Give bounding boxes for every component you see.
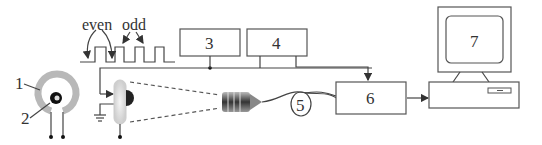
pulse-waveform: even odd [80, 16, 175, 62]
label-3: 3 [205, 34, 214, 53]
block-4: 4 [247, 29, 368, 80]
label-6: 6 [366, 89, 375, 108]
label-7: 7 [470, 32, 479, 51]
even-label: even [82, 16, 112, 33]
objective-lens [222, 92, 262, 112]
block-6: 6 [336, 82, 428, 114]
setup-diagram: 1 2 even odd [0, 0, 542, 145]
label-5: 5 [296, 96, 305, 115]
optical-fiber: 5 [262, 92, 348, 116]
label-2: 2 [21, 109, 30, 128]
computer: 7 [429, 7, 519, 108]
light-cone-top [130, 82, 220, 95]
label-1: 1 [15, 74, 24, 93]
odd-label: odd [122, 16, 146, 33]
label-4: 4 [272, 34, 281, 53]
block-3: 3 [180, 29, 240, 68]
coil-component: 1 2 [15, 74, 76, 139]
pc-case [429, 82, 519, 108]
light-cone-bottom [130, 108, 220, 122]
led-emitter [114, 80, 134, 139]
